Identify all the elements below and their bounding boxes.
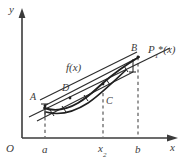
point-label-a: A: [30, 92, 36, 102]
x-tick-label-b: b: [135, 144, 141, 155]
point-label-d: D: [62, 83, 69, 93]
x-tick-label-a: a: [42, 144, 48, 155]
x-tick-label-x2: x2: [98, 143, 106, 157]
chord-line-ab: [44, 57, 139, 106]
p1-argument: (x): [163, 43, 175, 55]
x-axis-label: x: [170, 142, 175, 153]
function-curve-inner: [46, 70, 126, 114]
figure-container: y x O a x2 b A B C D f(x) P1*(x): [0, 0, 186, 168]
point-label-c: C: [106, 96, 113, 106]
parallel-line-upper: [40, 52, 137, 100]
origin-label: O: [6, 143, 14, 154]
axes-group: [19, 8, 178, 142]
point-marker-c: [102, 83, 105, 86]
approximation-line-p1: [29, 48, 170, 117]
point-marker-d: [69, 97, 72, 100]
y-axis-label: y: [9, 4, 14, 15]
point-marker-b: [137, 56, 140, 59]
y-axis-arrowhead: [19, 8, 26, 18]
function-label-fx: f(x): [66, 62, 81, 73]
point-marker-a: [44, 105, 47, 108]
point-label-b: B: [131, 43, 137, 53]
figure-canvas: [0, 0, 186, 168]
dashed-verticals-group: [45, 57, 138, 137]
p1-subscript: 1: [155, 52, 159, 60]
p1-base: P: [148, 43, 155, 55]
x-tick-subscript: 2: [103, 151, 107, 159]
approximation-label-p1: P1*(x): [148, 44, 175, 58]
